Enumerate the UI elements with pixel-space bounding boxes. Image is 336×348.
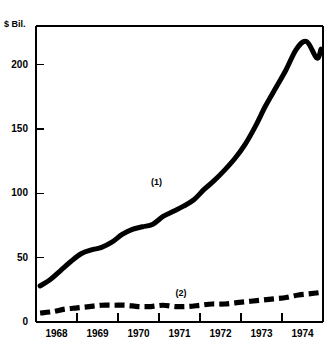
data-series-layer — [40, 41, 321, 313]
x-tick-label-1968: 1968 — [36, 328, 78, 339]
plot-area — [0, 0, 336, 348]
series-annotation-2: (2) — [176, 288, 187, 298]
series-line-1 — [40, 41, 321, 286]
y-tick-label-150: 150 — [0, 124, 28, 134]
y-tick-label-100: 100 — [0, 188, 28, 198]
tick-marks-layer — [36, 65, 282, 322]
chart-figure: $ Bil. 050100150200 19681969197019711972… — [0, 0, 336, 348]
x-tick-label-1970: 1970 — [118, 328, 160, 339]
x-tick-label-1969: 1969 — [77, 328, 119, 339]
x-tick-label-1971: 1971 — [159, 328, 201, 339]
series-annotation-1: (1) — [151, 177, 162, 187]
x-tick-label-1973: 1973 — [241, 328, 283, 339]
y-tick-label-0: 0 — [0, 317, 28, 327]
x-tick-label-1972: 1972 — [200, 328, 242, 339]
y-tick-label-50: 50 — [0, 253, 28, 263]
axes-layer — [36, 26, 323, 322]
x-tick-label-1974: 1974 — [282, 328, 324, 339]
y-tick-label-200: 200 — [0, 60, 28, 70]
